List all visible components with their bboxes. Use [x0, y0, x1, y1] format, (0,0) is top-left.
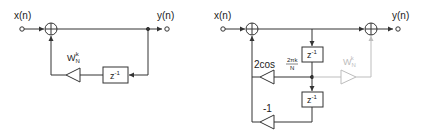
goertzel-diagrams: x(n) y(n) z-1 WN-k [0, 0, 424, 135]
gain-2cos-numerator: 2πk [287, 57, 298, 63]
gain-minus1-triangle-icon [260, 115, 274, 129]
output-label: y(n) [157, 10, 174, 21]
output-node [165, 27, 169, 31]
gain-minus1-label: -1 [263, 103, 272, 114]
gain-triangle-icon [66, 68, 80, 82]
gain-2cos-label: 2cos [254, 59, 275, 70]
adder-icon [45, 23, 57, 35]
output-adder-icon [365, 23, 377, 35]
input-node [221, 27, 225, 31]
left-diagram [20, 23, 169, 83]
output-label: y(n) [392, 10, 409, 21]
input-label: x(n) [214, 10, 231, 21]
output-node [396, 27, 400, 31]
adder-icon [246, 23, 258, 35]
gain-2cos-denominator: N [290, 65, 294, 71]
gain-2cos-triangle-icon [260, 70, 274, 84]
input-label: x(n) [14, 10, 31, 21]
input-node [20, 27, 24, 31]
gain-wnk-triangle-icon [341, 70, 356, 84]
gain-label: WN-k [67, 51, 80, 64]
right-diagram [221, 23, 400, 129]
gain-wnk-label: WNk [343, 55, 356, 68]
